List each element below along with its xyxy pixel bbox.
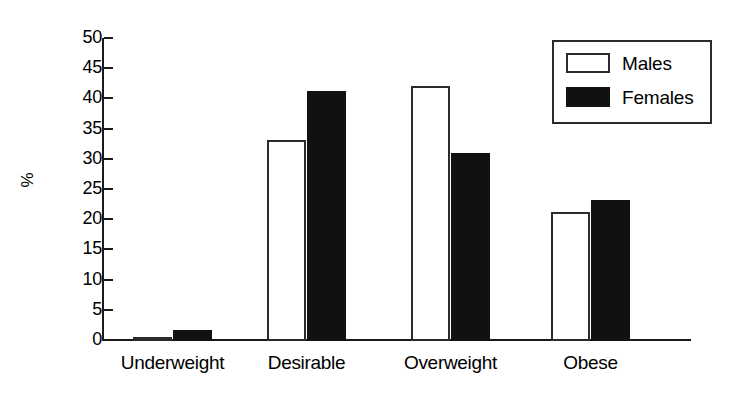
- y-axis-tick-label: 30: [40, 149, 102, 167]
- legend: Males Females: [552, 40, 712, 124]
- y-axis-title: %: [18, 160, 38, 200]
- y-axis-tick-mark: [104, 97, 113, 99]
- y-axis-tick-label: 15: [40, 239, 102, 257]
- y-axis-tick-label: 45: [40, 58, 102, 76]
- y-axis-tick-mark: [104, 309, 113, 311]
- y-axis-tick-label-text: 25: [56, 179, 102, 197]
- y-axis-tick-mark: [104, 158, 113, 160]
- y-axis-tick-label-text: 10: [56, 270, 102, 288]
- y-axis-tick-label: 35: [40, 119, 102, 137]
- legend-swatch-females-icon: [566, 87, 610, 107]
- y-axis-tick-label-text: 30: [56, 149, 102, 167]
- bar-obese-males: [551, 212, 590, 341]
- legend-swatch-males-icon: [566, 53, 610, 73]
- bar-desirable-females: [307, 91, 346, 341]
- legend-label-females: Females: [622, 88, 693, 107]
- y-axis-tick-mark: [104, 248, 113, 250]
- y-axis-tick-mark: [104, 67, 113, 69]
- legend-label-males: Males: [622, 54, 672, 73]
- y-axis-tick-label: 25: [40, 179, 102, 197]
- x-axis-label-obese: Obese: [496, 352, 685, 374]
- y-axis-tick-label-text: 15: [56, 239, 102, 257]
- bar-underweight-males: [133, 337, 172, 341]
- y-axis-tick-label-text: 40: [56, 88, 102, 106]
- y-axis-tick-mark: [104, 188, 113, 190]
- y-axis-tick-mark: [104, 339, 113, 341]
- bar-underweight-females: [173, 330, 212, 341]
- y-axis-tick-label: 50: [40, 28, 102, 46]
- y-axis-tick-mark: [104, 218, 113, 220]
- y-axis-tick-label: 20: [40, 209, 102, 227]
- y-axis-tick-label-text: 45: [56, 58, 102, 76]
- bar-chart: % 05101520253035404550 UnderweightDesira…: [0, 0, 746, 403]
- y-axis-tick-mark: [104, 279, 113, 281]
- y-axis-tick-label: 10: [40, 270, 102, 288]
- bar-obese-females: [591, 200, 630, 341]
- bar-desirable-males: [267, 140, 306, 341]
- legend-entry-females: Females: [566, 87, 693, 107]
- y-axis-tick-label: 40: [40, 88, 102, 106]
- bar-overweight-females: [451, 153, 490, 341]
- legend-entry-males: Males: [566, 53, 672, 73]
- y-axis-tick-label-text: 0: [56, 330, 102, 348]
- y-axis-tick-mark: [104, 128, 113, 130]
- y-axis-tick-label-text: 20: [56, 209, 102, 227]
- y-axis-tick-label-text: 5: [56, 300, 102, 318]
- y-axis-tick-label-text: 35: [56, 119, 102, 137]
- bar-overweight-males: [411, 86, 450, 341]
- y-axis-tick-label-text: 50: [56, 28, 102, 46]
- y-axis-tick-label: 5: [40, 300, 102, 318]
- y-axis-tick-mark: [104, 37, 113, 39]
- y-axis-tick-label: 0: [40, 330, 102, 348]
